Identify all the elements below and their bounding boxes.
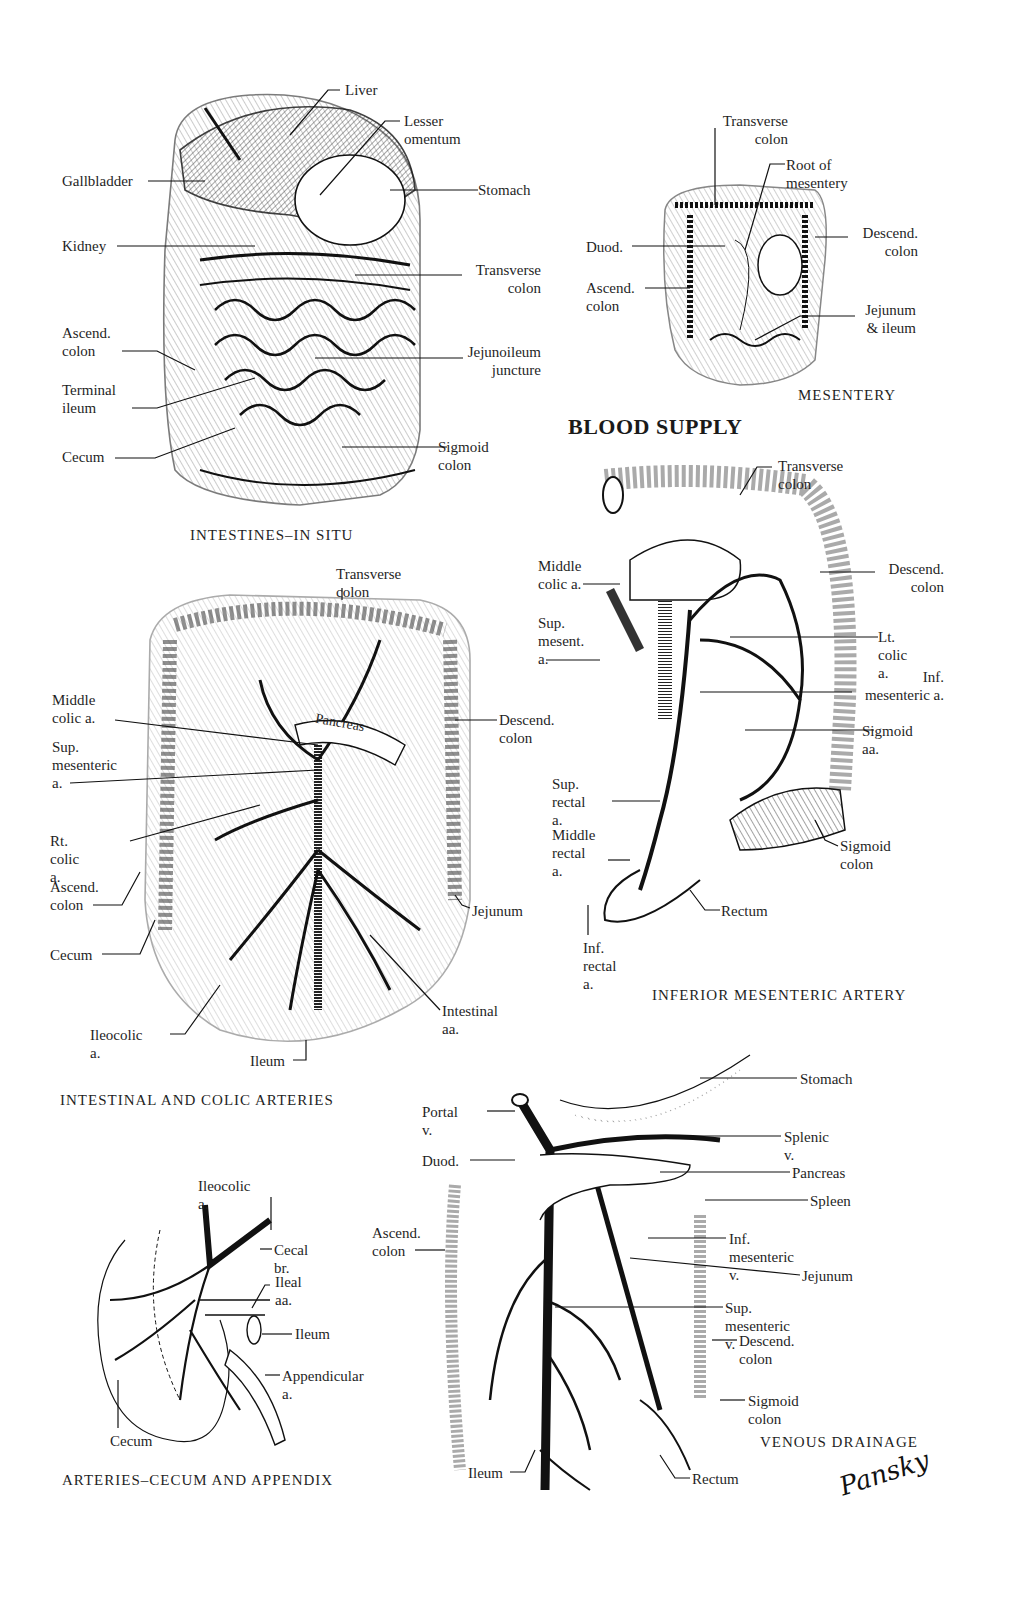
label-appendicular: Appendicular a. xyxy=(282,1367,364,1403)
label-inf-rectal: Inf. rectal a. xyxy=(583,939,616,993)
label-middle-colic: Middle colic a. xyxy=(538,557,581,593)
caption-venous-drainage: VENOUS DRAINAGE xyxy=(760,1434,918,1451)
label-ascend-colon: Ascend. colon xyxy=(372,1224,421,1260)
label-descend-colon: Descend. colon xyxy=(739,1332,794,1368)
label-jejunum: Jejunum xyxy=(802,1267,853,1285)
label-stomach: Stomach xyxy=(800,1070,853,1088)
label-cecum: Cecum xyxy=(62,448,105,466)
label-middle-rectal: Middle rectal a. xyxy=(552,826,595,880)
label-cecal-br: Cecal br. xyxy=(274,1241,308,1277)
label-gallbladder: Gallbladder xyxy=(62,172,133,190)
label-rectum: Rectum xyxy=(721,902,768,920)
label-pancreas: Pancreas xyxy=(792,1164,845,1182)
label-ileum: Ileum xyxy=(250,1052,285,1070)
label-ileocolic: Ileocolic a. xyxy=(90,1026,142,1062)
intestinal-colic-illustration xyxy=(70,588,497,1060)
label-ascend-colon: Ascend. colon xyxy=(586,279,635,315)
cecum-appendix-illustration xyxy=(98,1197,292,1445)
inferior-mesenteric-illustration xyxy=(546,467,878,935)
label-ileum: Ileum xyxy=(295,1325,330,1343)
label-sigmoid-colon: Sigmoid colon xyxy=(748,1392,799,1428)
label-sigmoid-aa: Sigmoid aa. xyxy=(862,722,913,758)
label-jejunoileum-juncture: Jejunoileum juncture xyxy=(420,343,541,379)
label-jejunum: Jejunum xyxy=(472,902,523,920)
label-descend-colon: Descend. colon xyxy=(499,711,554,747)
label-sup-rectal: Sup. rectal a. xyxy=(552,775,585,829)
in-situ-illustration xyxy=(115,90,478,505)
label-descend-colon: Descend. colon xyxy=(840,224,918,260)
label-transverse-colon: Transverse colon xyxy=(690,112,788,148)
label-ascend-colon: Ascend. colon xyxy=(62,324,111,360)
label-sup-mesenteric: Sup. mesenteric a. xyxy=(52,738,117,792)
label-rectum: Rectum xyxy=(692,1470,739,1488)
label-splenic-v: Splenic v. xyxy=(784,1128,829,1164)
label-sup-mesent: Sup. mesent. a. xyxy=(538,614,584,668)
label-transverse-colon: Transverse colon xyxy=(336,565,401,601)
caption-mesentery: MESENTERY xyxy=(798,387,896,404)
label-ileum: Ileum xyxy=(468,1464,503,1482)
label-middle-colic: Middle colic a. xyxy=(52,691,95,727)
section-heading: BLOOD SUPPLY xyxy=(568,414,743,440)
label-cecum: Cecum xyxy=(110,1432,153,1450)
label-sigmoid-colon: Sigmoid colon xyxy=(840,837,891,873)
label-inf-mesenteric-v: Inf. mesenteric v. xyxy=(729,1230,794,1284)
label-descend-colon: Descend. colon xyxy=(860,560,944,596)
label-kidney: Kidney xyxy=(62,237,106,255)
label-root-of-mesentery: Root of mesentery xyxy=(786,156,848,192)
label-intestinal-aa: Intestinal aa. xyxy=(442,1002,498,1038)
caption-inferior-mesenteric-artery: INFERIOR MESENTERIC ARTERY xyxy=(652,987,906,1004)
label-jejunum-ileum: Jejunum & ileum xyxy=(840,301,916,337)
label-duod: Duod. xyxy=(422,1152,459,1170)
label-spleen: Spleen xyxy=(810,1192,851,1210)
caption-intestinal-colic-arteries: INTESTINAL AND COLIC ARTERIES xyxy=(60,1092,334,1109)
label-transverse-colon: Transverse colon xyxy=(440,261,541,297)
caption-cecum-appendix: ARTERIES–CECUM AND APPENDIX xyxy=(62,1472,333,1489)
label-terminal-ileum: Terminal ileum xyxy=(62,381,116,417)
label-portal-v: Portal v. xyxy=(422,1103,458,1139)
label-liver: Liver xyxy=(345,81,377,99)
label-stomach: Stomach xyxy=(478,181,531,199)
label-transverse-colon: Transverse colon xyxy=(778,457,843,493)
label-ascend-colon: Ascend. colon xyxy=(50,878,99,914)
label-sigmoid-colon: Sigmoid colon xyxy=(438,438,489,474)
label-ileal-aa: Ileal aa. xyxy=(275,1273,302,1309)
label-lesser-omentum: Lesser omentum xyxy=(404,112,461,148)
label-ileocolic: Ileocolic a. xyxy=(198,1177,250,1213)
label-inf-mesenteric: Inf. mesenteric a. xyxy=(840,668,944,704)
caption-intestines-in-situ: INTESTINES–IN SITU xyxy=(190,527,353,544)
label-cecum: Cecum xyxy=(50,946,93,964)
label-duod: Duod. xyxy=(586,238,623,256)
